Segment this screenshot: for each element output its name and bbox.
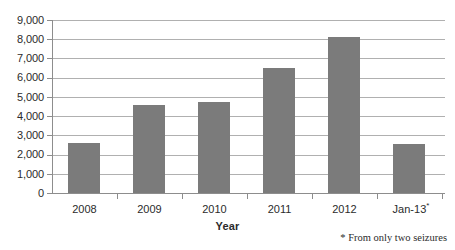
y-tick-label: 3,000	[0, 130, 44, 141]
chart-footnote: * From only two seizures	[340, 232, 447, 243]
x-axis-line	[52, 193, 445, 194]
x-tick-label-jan-13-text: Jan-13	[393, 203, 427, 215]
plot-area	[52, 20, 445, 193]
x-tick-label-2009: 2009	[117, 203, 182, 215]
x-tick-label-2012: 2012	[312, 203, 377, 215]
bar-2009	[133, 105, 165, 193]
x-tick-label-2008: 2008	[52, 203, 117, 215]
gridline	[52, 116, 445, 117]
gridline	[52, 20, 445, 21]
y-tick-label: 8,000	[0, 34, 44, 45]
bar-2008	[68, 143, 100, 193]
gridline	[52, 39, 445, 40]
y-tick-label: 4,000	[0, 111, 44, 122]
x-tick-mark	[312, 194, 313, 199]
gridline	[52, 174, 445, 175]
x-tick-label-2011: 2011	[247, 203, 312, 215]
gridline	[52, 97, 445, 98]
gridline	[52, 58, 445, 59]
x-tick-mark	[117, 194, 118, 199]
y-axis-line	[52, 20, 53, 194]
footnote-marker-icon: *	[426, 201, 429, 210]
y-tick-label: 0	[0, 188, 44, 199]
gridline	[52, 135, 445, 136]
y-tick-label: 9,000	[0, 15, 44, 26]
gridline	[52, 78, 445, 79]
x-tick-label-2010: 2010	[182, 203, 247, 215]
x-tick-mark	[247, 194, 248, 199]
x-axis-title: Year	[0, 220, 455, 232]
y-tick-label: 7,000	[0, 53, 44, 64]
y-tick-label: 5,000	[0, 92, 44, 103]
bar-2011	[263, 68, 295, 193]
x-tick-mark	[377, 194, 378, 199]
x-tick-mark	[442, 194, 443, 199]
y-tick-label: 1,000	[0, 169, 44, 180]
y-tick-label: 6,000	[0, 72, 44, 83]
bar-jan-13	[393, 144, 425, 193]
bar-chart: 9,000 8,000 7,000 6,000 5,000 4,000 3,00…	[0, 0, 455, 250]
x-tick-mark	[182, 194, 183, 199]
gridline	[52, 155, 445, 156]
x-tick-label-jan-13: Jan-13*	[377, 203, 445, 215]
bar-2010	[198, 102, 230, 193]
y-tick-label: 2,000	[0, 149, 44, 160]
bar-2012	[328, 37, 360, 193]
